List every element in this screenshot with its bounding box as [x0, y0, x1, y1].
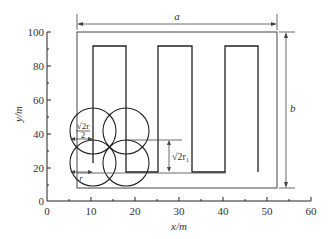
x-tick-labels: 0 10 20 30 40 50 60: [44, 205, 317, 217]
x-tick: 30: [174, 205, 186, 217]
spacing-dimension: [167, 140, 171, 172]
x-axis: [47, 197, 311, 201]
y-axis-label: y/m: [12, 106, 24, 123]
x-axis-label: x/m: [170, 220, 187, 232]
y-axis: [47, 32, 51, 201]
x-tick: 40: [218, 205, 230, 217]
coverage-diagram: 100 80 60 40 20 0 0 10 20 30 40 50 60 x/…: [0, 0, 332, 239]
x-tick: 0: [44, 205, 50, 217]
y-tick: 100: [28, 26, 45, 38]
boundary-rectangle: [77, 32, 277, 188]
y-tick: 80: [33, 60, 45, 72]
y-tick: 40: [33, 128, 45, 140]
dimension-a-label: a: [174, 10, 180, 22]
x-tick: 50: [262, 205, 274, 217]
y-tick-labels: 100 80 60 40 20 0: [28, 26, 45, 207]
x-tick: 60: [306, 205, 318, 217]
x-tick: 10: [86, 205, 98, 217]
dimension-b-label: b: [290, 102, 296, 114]
spacing-label: √2r₁: [172, 151, 189, 162]
radius-label: r: [79, 173, 83, 183]
y-tick: 60: [33, 94, 45, 106]
y-tick: 20: [33, 162, 45, 174]
x-tick: 20: [130, 205, 142, 217]
half-diagonal-denominator: 2: [81, 130, 86, 140]
